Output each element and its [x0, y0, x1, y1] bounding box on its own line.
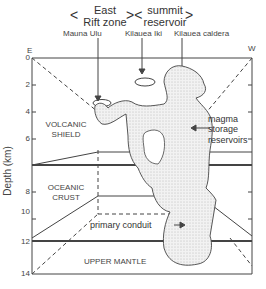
tick-14: 14 [16, 270, 30, 278]
chevron-left-icon: < [70, 8, 78, 22]
kilauea-caldera-label: Kilauea caldera [174, 30, 229, 38]
tick-6: 6 [16, 135, 30, 143]
depth-axis-label: Depth (km) [3, 141, 13, 201]
volcanic-shield-label: VOLCANIC SHIELD [44, 120, 88, 139]
east-rift-zone-label: East Rift zone [80, 4, 130, 28]
kilauea-iki-label: Kilauea Iki [125, 30, 162, 38]
upper-mantle-label: UPPER MANTLE [84, 258, 146, 266]
mauna-ulu-label: Mauna Ulu [63, 30, 102, 38]
primary-conduit-label: primary conduit [90, 220, 152, 230]
tick-12: 12 [16, 238, 30, 246]
tick-10: 10 [16, 208, 30, 216]
kilauea-iki-reservoir [135, 78, 155, 86]
oceanic-crust-label: OCEANIC CRUST [46, 183, 86, 202]
magma-storage-reservoirs-label: magma storage reservoirs [208, 114, 248, 145]
summit-reservoir-label: summit reservoir [142, 4, 188, 28]
chevron-right-icon: > [185, 8, 193, 22]
chevron-pair-icon: >< [126, 8, 142, 22]
tick-4: 4 [16, 108, 30, 116]
tick-8: 8 [16, 188, 30, 196]
tick-0: 0 [16, 54, 30, 62]
tick-2: 2 [16, 81, 30, 89]
west-label: W [248, 45, 256, 53]
